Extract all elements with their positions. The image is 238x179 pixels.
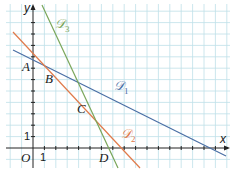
origin-label: O	[21, 151, 30, 164]
x-unit-label: 1	[40, 152, 46, 163]
line-d3-label: 𝒟3	[55, 17, 70, 34]
line-d1-label: 𝒟1	[114, 79, 129, 96]
point-d-label: D	[99, 151, 108, 164]
point-b-label: B	[45, 72, 53, 85]
x-axis-label: x	[220, 133, 226, 145]
point-a-label: A	[22, 60, 30, 73]
y-axis-label: y	[24, 2, 30, 14]
y-unit-label: 1	[24, 131, 30, 142]
line-d2-label: 𝒟2	[121, 127, 136, 144]
point-c-label: C	[77, 102, 86, 115]
line-d3	[42, 5, 118, 168]
y-axis-arrow-icon	[31, 4, 36, 10]
